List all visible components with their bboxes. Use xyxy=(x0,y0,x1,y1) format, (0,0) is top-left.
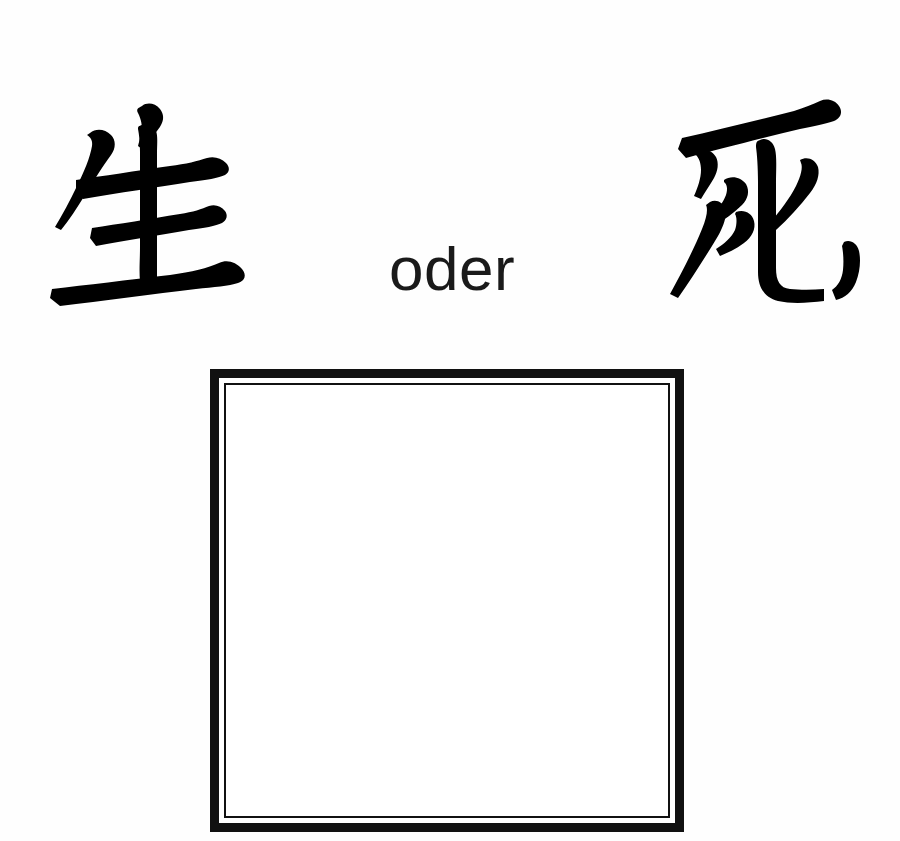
answer-box[interactable] xyxy=(210,369,684,832)
kanji-death-glyph xyxy=(648,92,883,307)
answer-box-field[interactable] xyxy=(226,385,668,816)
answer-box-gap xyxy=(219,378,675,823)
conjunction-text: oder xyxy=(389,238,515,300)
page-canvas: oder xyxy=(0,0,900,841)
kanji-life-glyph xyxy=(46,92,256,307)
answer-box-inner-rule xyxy=(224,383,670,818)
